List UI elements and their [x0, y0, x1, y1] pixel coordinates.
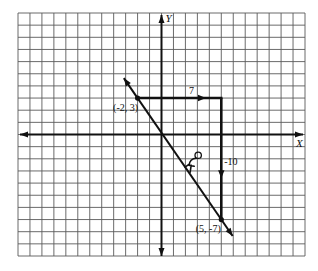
coordinate-plane: Y X 7 -10 (-2, 3) (5, -7) [0, 0, 318, 271]
rise-label: -10 [224, 156, 237, 167]
point-label-a: (-2, 3) [113, 102, 138, 114]
point-label-b: (5, -7) [196, 223, 221, 235]
run-label: 7 [189, 85, 194, 96]
x-axis-label: X [295, 137, 304, 149]
